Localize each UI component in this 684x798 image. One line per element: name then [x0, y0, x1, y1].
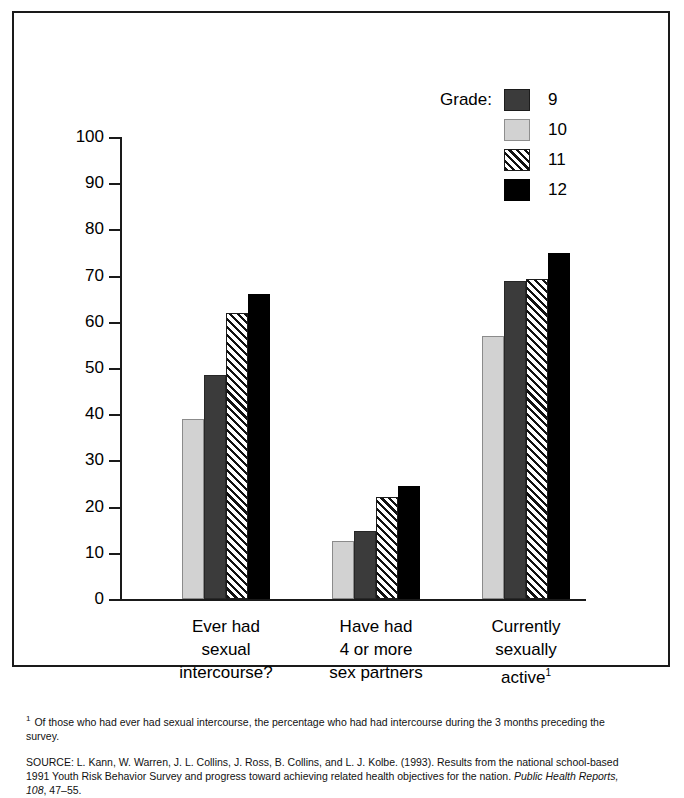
- bar-group-3-grade-12: [548, 253, 570, 600]
- bar-group-2-grade-11: [376, 497, 398, 599]
- y-tick-label-60: 60: [85, 312, 104, 332]
- bar-group-1-grade-12: [248, 294, 270, 599]
- y-tick-label-10: 10: [85, 543, 104, 563]
- category-line: sexually: [436, 638, 616, 661]
- y-tick-mark-90: [109, 183, 120, 185]
- chart-title-text: Sexual Intercourse: Grade: [0, 0, 684, 6]
- y-tick-label-80: 80: [85, 219, 104, 239]
- x-category-label-3: Currentlysexuallyactive1: [436, 615, 616, 689]
- legend-item-grade-9: Grade:9: [412, 85, 612, 115]
- y-tick-label-30: 30: [85, 450, 104, 470]
- y-tick-mark-40: [109, 414, 120, 416]
- legend-label-grade-9: 9: [530, 90, 557, 110]
- plot-area: 1009080706050403020100Ever hadsexualinte…: [120, 137, 582, 599]
- footnote: 1Of those who had ever had sexual interc…: [26, 712, 626, 743]
- bar-group-2-grade-9: [354, 531, 376, 599]
- category-line: Currently: [436, 615, 616, 638]
- footnote-text: Of those who had ever had sexual interco…: [26, 716, 605, 742]
- y-tick-mark-20: [109, 507, 120, 509]
- footnote-marker: 1: [26, 714, 30, 723]
- y-tick-label-20: 20: [85, 497, 104, 517]
- y-tick-mark-50: [109, 368, 120, 370]
- source-tail: , 47–55.: [44, 784, 82, 796]
- bar-group-1-grade-11: [226, 313, 248, 599]
- y-tick-mark-70: [109, 276, 120, 278]
- y-tick-label-70: 70: [85, 266, 104, 286]
- y-tick-label-0: 0: [95, 589, 104, 609]
- chart-frame: Grade:9101112 1009080706050403020100Ever…: [12, 11, 670, 667]
- y-tick-mark-10: [109, 553, 120, 555]
- y-axis-line: [120, 137, 122, 599]
- y-tick-mark-30: [109, 460, 120, 462]
- y-tick-mark-80: [109, 229, 120, 231]
- y-tick-label-90: 90: [85, 173, 104, 193]
- legend-title: Grade:: [412, 90, 504, 110]
- bar-group-3-grade-10: [482, 336, 504, 599]
- chart-title-clipped: Sexual Intercourse: Grade: [0, 0, 684, 11]
- y-tick-mark-0: [109, 599, 120, 601]
- bar-group-3-grade-11: [526, 279, 548, 599]
- x-axis-line: [120, 599, 586, 601]
- y-tick-label-100: 100: [76, 127, 104, 147]
- source-citation: SOURCE: L. Kann, W. Warren, J. L. Collin…: [26, 755, 640, 797]
- y-tick-mark-60: [109, 322, 120, 324]
- category-footnote-marker: 1: [545, 667, 551, 678]
- y-tick-label-50: 50: [85, 358, 104, 378]
- category-line: active1: [436, 661, 616, 689]
- bar-group-2-grade-12: [398, 486, 420, 599]
- bar-group-2-grade-10: [332, 541, 354, 599]
- bar-group-1-grade-10: [182, 419, 204, 599]
- bar-group-3-grade-9: [504, 281, 526, 599]
- y-tick-mark-100: [109, 137, 120, 139]
- legend-swatch-grade-9: [504, 89, 530, 111]
- y-tick-label-40: 40: [85, 404, 104, 424]
- bar-group-1-grade-9: [204, 375, 226, 599]
